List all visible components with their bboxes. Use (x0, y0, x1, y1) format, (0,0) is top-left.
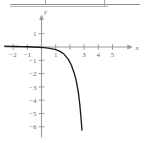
y-tick-label: −5 (29, 110, 37, 118)
plot-area: −2−11345 1−1−2−3−4−5−6 x y (0, 0, 145, 143)
graph-svg: −2−11345 1−1−2−3−4−5−6 x y (0, 0, 145, 143)
x-tick-label: 4 (97, 51, 101, 59)
x-axis-label: x (135, 44, 140, 52)
y-tick-label: −6 (29, 123, 37, 131)
y-axis-tick-labels: 1−1−2−3−4−5−6 (29, 30, 37, 131)
x-tick-label: 3 (82, 51, 86, 59)
x-tick-label: 1 (54, 51, 58, 59)
figure-canvas: −2−11345 1−1−2−3−4−5−6 x y (0, 0, 145, 143)
x-axis-arrow-icon (127, 45, 132, 50)
y-tick-label: 1 (33, 30, 37, 38)
y-tick-label: −4 (29, 97, 37, 105)
x-tick-label: −2 (9, 51, 17, 59)
y-tick-label: −2 (29, 70, 37, 78)
y-axis-label: y (43, 8, 48, 16)
y-tick-label: −3 (29, 84, 37, 92)
y-tick-label: −1 (29, 57, 37, 65)
x-tick-label: 5 (111, 51, 115, 59)
